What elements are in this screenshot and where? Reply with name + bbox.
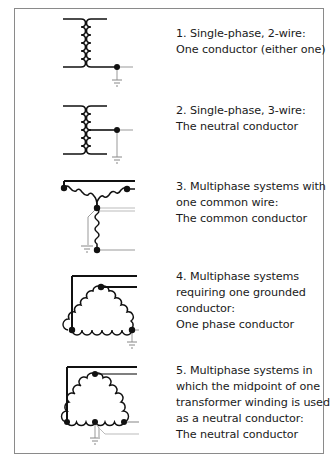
transformer-single-phase-3wire-diagram: [55, 95, 145, 170]
item-3-text: 3. Multiphase systems with one common wi…: [176, 179, 321, 227]
item-2-line-2: The neutral conductor: [176, 119, 321, 135]
item-4-line-3: conductor:: [176, 301, 321, 317]
item-4-line-4: One phase conductor: [176, 317, 321, 333]
item-4-line-2: requiring one grounded: [176, 285, 321, 301]
item-5-text: 5. Multiphase systems in which the midpo…: [176, 363, 321, 443]
item-5-line-3: transformer winding is used: [176, 395, 321, 411]
item-4-text: 4. Multiphase systems requiring one grou…: [176, 269, 321, 333]
item-1-line-2: One conductor (either one): [176, 42, 321, 58]
item-4-line-1: 4. Multiphase systems: [176, 269, 321, 285]
junction-dot: [114, 127, 120, 133]
delta-grounded-phase-diagram: [55, 270, 145, 360]
item-5-line-2: which the midpoint of one: [176, 379, 321, 395]
item-5-line-5: The neutral conductor: [176, 427, 321, 443]
item-3-line-3: The common conductor: [176, 211, 321, 227]
item-2-line-1: 2. Single-phase, 3-wire:: [176, 103, 321, 119]
item-2-text: 2. Single-phase, 3-wire: The neutral con…: [176, 103, 321, 135]
item-1-text: 1. Single-phase, 2-wire: One conductor (…: [176, 26, 321, 58]
junction-dot: [114, 64, 120, 70]
wye-multiphase-common-wire-diagram: [55, 175, 145, 260]
item-5-line-4: as a neutral conductor:: [176, 411, 321, 427]
item-1-line-1: 1. Single-phase, 2-wire:: [176, 26, 321, 42]
item-3-line-1: 3. Multiphase systems with: [176, 179, 321, 195]
item-5-line-1: 5. Multiphase systems in: [176, 363, 321, 379]
item-3-line-2: one common wire:: [176, 195, 321, 211]
transformer-single-phase-2wire-diagram: [55, 10, 145, 90]
delta-center-tap-neutral-diagram: [55, 362, 145, 452]
